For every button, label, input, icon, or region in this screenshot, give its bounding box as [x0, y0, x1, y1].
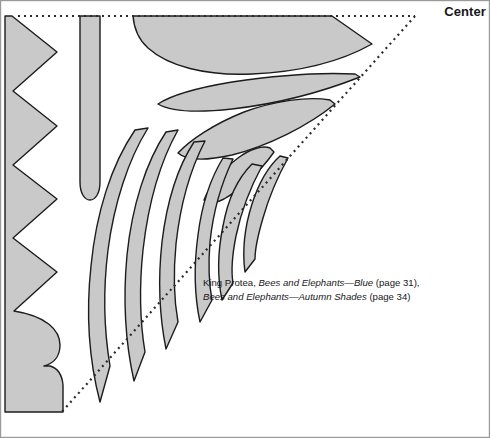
caption-line-2-italic: Bees and Elephants—Autumn Shades [203, 291, 367, 302]
pattern-caption: King Protea, Bees and Elephants—Blue (pa… [203, 276, 453, 304]
caption-line-2: Bees and Elephants—Autumn Shades (page 3… [203, 290, 453, 304]
caption-line-2-plain: (page 34) [367, 291, 411, 302]
caption-line-1-plain-b: (page 31), [373, 277, 419, 288]
caption-line-1-plain-a: King Protea, [203, 277, 258, 288]
caption-line-1: King Protea, Bees and Elephants—Blue (pa… [203, 276, 453, 290]
quilt-pattern-illustration [0, 0, 490, 438]
caption-line-1-italic: Bees and Elephants—Blue [258, 277, 373, 288]
pattern-page: Center King Protea, Bees and Elephants—B… [0, 0, 490, 438]
center-label: Center [444, 4, 486, 19]
vertical-stem-bar [80, 16, 100, 200]
